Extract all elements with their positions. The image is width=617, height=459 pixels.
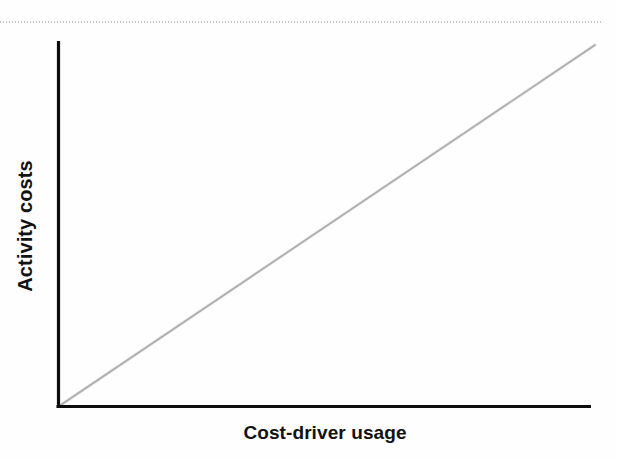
plot-svg <box>0 0 617 459</box>
y-axis-title-text: Activity costs <box>14 160 37 291</box>
activity-cost-line-halo <box>59 45 596 407</box>
plot-area <box>0 0 617 459</box>
x-axis-title: Cost-driver usage <box>243 422 406 444</box>
chart-figure: Activity costs Cost-driver usage <box>0 0 617 459</box>
cost-line-group <box>59 45 596 407</box>
